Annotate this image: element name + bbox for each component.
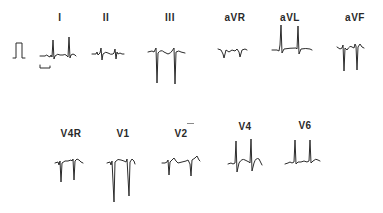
trace-lead-V4R bbox=[55, 159, 83, 182]
trace-lead-aVF bbox=[337, 44, 364, 71]
trace-lead-V1 bbox=[107, 159, 135, 202]
ecg-traces bbox=[0, 0, 383, 213]
trace-lead-V4 bbox=[228, 139, 262, 172]
trace-lead-I bbox=[40, 37, 76, 59]
ecg-figure: I II III aVR aVL aVF V4R V1 V2 V4 V6 bbox=[0, 0, 383, 213]
calibration-pulse-icon bbox=[13, 43, 25, 58]
trace-lead-V6 bbox=[285, 140, 320, 164]
trace-lead-III bbox=[148, 48, 185, 84]
trace-lead-aVR bbox=[218, 49, 247, 58]
trace-lead-II bbox=[92, 48, 124, 60]
time-scale-bracket-icon bbox=[40, 65, 50, 68]
trace-lead-aVL bbox=[272, 25, 312, 54]
trace-lead-V2 bbox=[162, 156, 200, 176]
